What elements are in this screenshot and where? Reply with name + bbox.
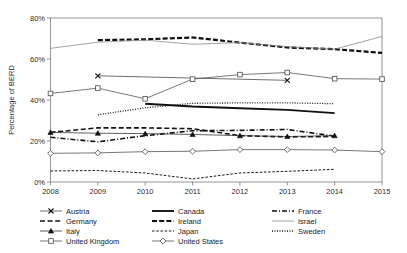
series-canada [145,104,334,113]
legend-item-united-states[interactable]: United States [152,237,223,246]
y-axis-title: Percentage of BERD [7,65,16,135]
legend-item-united-kingdom[interactable]: United Kingdom [40,237,119,246]
line-chart: 0%20%40%60%80% 2008200920102011201220132… [0,0,407,253]
chart-container: 0%20%40%60%80% 2008200920102011201220132… [0,0,407,253]
legend-label: Sweden [298,227,325,236]
legend-label: United Kingdom [66,237,119,246]
legend-item-ireland[interactable]: Ireland [152,217,201,226]
chart-axes [51,18,383,182]
legend-label: Ireland [178,217,201,226]
svg-text:20%: 20% [30,137,45,146]
svg-text:0%: 0% [34,178,45,187]
legend-item-germany[interactable]: Germany [40,217,97,226]
legend-item-italy[interactable]: Italy [40,227,80,236]
svg-text:Percentage of BERD: Percentage of BERD [7,65,16,135]
svg-text:2014: 2014 [326,187,343,196]
svg-text:2008: 2008 [42,187,59,196]
legend-item-israel[interactable]: Israel [272,217,317,226]
svg-text:2012: 2012 [232,187,249,196]
chart-series [48,36,385,178]
x-axis-ticks: 20082009201020112012201320142015 [42,182,390,196]
svg-text:80%: 80% [30,14,45,23]
svg-text:2010: 2010 [137,187,154,196]
series-sweden [98,103,335,115]
series-israel [51,36,383,49]
legend-item-japan[interactable]: Japan [152,227,198,236]
svg-text:2015: 2015 [374,187,391,196]
legend-label: United States [178,237,223,246]
legend-item-austria[interactable]: Austria [40,207,90,216]
legend-label: Germany [66,217,97,226]
legend-item-canada[interactable]: Canada [152,207,205,216]
chart-legend: AustriaCanadaFranceGermanyIrelandIsraelI… [40,207,325,246]
legend-label: Japan [178,227,198,236]
svg-text:2013: 2013 [279,187,296,196]
legend-item-sweden[interactable]: Sweden [272,227,325,236]
svg-text:60%: 60% [30,55,45,64]
y-axis-ticks: 0%20%40%60%80% [30,14,51,187]
series-ireland [98,37,382,52]
series-japan [51,169,335,179]
svg-text:40%: 40% [30,96,45,105]
svg-text:2011: 2011 [185,187,201,196]
legend-item-france[interactable]: France [272,207,321,216]
legend-label: France [298,207,321,216]
svg-text:2009: 2009 [90,187,107,196]
legend-label: Israel [298,217,317,226]
series-united-states [48,147,385,156]
legend-label: Austria [66,207,90,216]
legend-label: Canada [178,207,205,216]
legend-label: Italy [66,227,80,236]
